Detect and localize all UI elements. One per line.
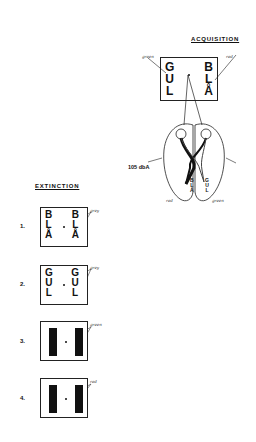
- acquisition-title: ACQUISITION: [191, 36, 239, 42]
- fixation-point: [63, 284, 65, 286]
- trial-right-word: B L Å: [72, 210, 79, 240]
- trial-left-word: G U L: [45, 268, 53, 298]
- fixation-point: [63, 226, 65, 228]
- left-color-label: green: [142, 54, 154, 59]
- extinction-trial-4: [40, 378, 88, 418]
- right-bar: [75, 385, 83, 413]
- trial-color-label: green: [90, 322, 102, 327]
- extinction-trial-1: B L Å B L Å: [40, 207, 88, 247]
- trial-number: 1.: [20, 223, 25, 229]
- trial-number: 4.: [20, 395, 25, 401]
- fixation-point: [65, 398, 67, 400]
- extinction-trial-2: G U L G U L: [40, 265, 88, 305]
- extinction-trial-3: [40, 321, 88, 361]
- right-bar: [75, 328, 83, 356]
- trial-number: 3.: [20, 338, 25, 344]
- extinction-title: EXTINCTION: [35, 183, 79, 189]
- trial-number: 2.: [20, 281, 25, 287]
- trial-color-label: grey: [90, 265, 99, 270]
- fixation-point: [188, 74, 190, 76]
- brain-right-letters: G U L: [205, 178, 209, 193]
- brain-left-label: red: [166, 198, 173, 203]
- brain-left-letters: B L Å: [190, 178, 194, 193]
- letter: Å: [204, 85, 213, 97]
- right-color-label: red: [226, 54, 233, 59]
- left-bar: [49, 328, 57, 356]
- trial-left-word: B L Å: [45, 210, 52, 240]
- acquisition-right-word: B L Å: [204, 61, 213, 97]
- brain-right-label: green: [212, 198, 224, 203]
- acquisition-left-word: G U L: [165, 61, 174, 97]
- sound-label: 105 dbA: [128, 164, 149, 170]
- acquisition-stimulus-box: G U L B L Å: [160, 57, 218, 101]
- trial-right-word: G U L: [71, 268, 79, 298]
- letter: L: [166, 85, 173, 97]
- left-bar: [49, 385, 57, 413]
- trial-color-label: red: [90, 379, 97, 384]
- fixation-point: [65, 341, 67, 343]
- trial-color-label: grey: [90, 208, 99, 213]
